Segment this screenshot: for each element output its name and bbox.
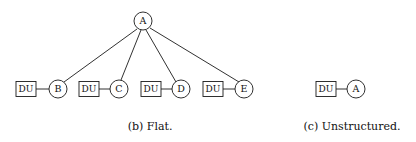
leaf-group-b: DU B xyxy=(16,80,67,98)
edge-a-to-b xyxy=(64,29,137,82)
node-c-label: C xyxy=(115,83,122,94)
caption-unstructured: (c) Unstructured. xyxy=(288,120,416,133)
tree-edges xyxy=(64,28,239,82)
node-a-root[interactable]: A xyxy=(134,12,152,30)
edge-a-to-d xyxy=(146,30,176,82)
du-box-b-label: DU xyxy=(18,84,33,94)
edge-a-to-e xyxy=(150,28,239,82)
edge-a-to-c xyxy=(121,30,141,80)
figure-root: A DU B DU C DU xyxy=(0,0,416,142)
leaf-group-unstructured-a: DU A xyxy=(316,80,365,98)
node-a-label: A xyxy=(139,15,147,26)
panel-flat: A DU B DU C DU xyxy=(16,12,253,98)
du-box-c-label: DU xyxy=(81,84,96,94)
du-box-unstructured-label: DU xyxy=(318,84,333,94)
leaf-group-c: DU C xyxy=(79,80,128,98)
leaf-group-d: DU D xyxy=(141,80,190,98)
node-b-label: B xyxy=(55,83,62,94)
leaf-group-e: DU E xyxy=(203,80,253,98)
node-e-label: E xyxy=(241,83,248,94)
du-box-d-label: DU xyxy=(143,84,158,94)
node-a-label-unstructured: A xyxy=(352,83,360,94)
du-box-e-label: DU xyxy=(205,84,220,94)
panel-unstructured: DU A xyxy=(316,80,365,98)
node-d-label: D xyxy=(177,83,185,94)
caption-flat: (b) Flat. xyxy=(0,120,300,133)
